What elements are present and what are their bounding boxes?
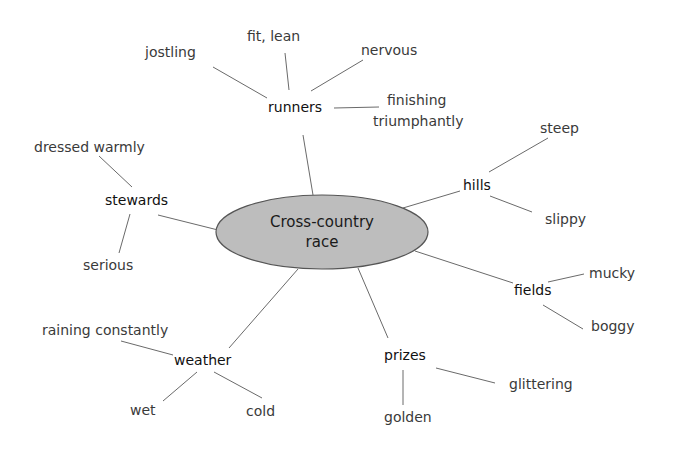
line-weather-cold: [214, 372, 262, 398]
leaf-wet: wet: [130, 402, 156, 418]
leaf-jostling: jostling: [145, 44, 196, 60]
leaf-fit-lean: fit, lean: [247, 28, 300, 44]
leaf-boggy: boggy: [591, 318, 635, 334]
leaf-slippy: slippy: [545, 211, 586, 227]
line-center-stewards: [158, 215, 218, 230]
line-runners-nervous: [311, 60, 363, 91]
leaf-raining-constantly: raining constantly: [42, 322, 168, 338]
leaf-mucky: mucky: [589, 265, 635, 281]
line-hills-slippy: [490, 196, 532, 212]
line-prizes-glittering: [436, 368, 495, 383]
leaf-steep: steep: [540, 120, 579, 136]
branch-fields: fields: [514, 282, 552, 298]
leaf-glittering: glittering: [509, 376, 573, 392]
branch-runners: runners: [268, 99, 322, 115]
line-center-fields: [415, 251, 513, 283]
leaf-dressed-warmly: dressed warmly: [34, 139, 145, 155]
leaf-serious: serious: [83, 257, 133, 273]
leaf-cold: cold: [246, 403, 275, 419]
line-center-prizes: [358, 268, 388, 338]
branch-prizes: prizes: [384, 347, 426, 363]
line-runners-fitlean: [285, 53, 289, 90]
line-center-weather: [229, 269, 298, 348]
branch-hills: hills: [463, 177, 491, 193]
center-ellipse: [216, 195, 428, 269]
leaf-nervous: nervous: [361, 42, 417, 58]
line-runners-jostling: [213, 67, 267, 98]
line-center-hills: [403, 191, 460, 208]
line-center-runners: [303, 135, 313, 195]
line-weather-raining: [121, 341, 173, 355]
line-stewards-dressed: [99, 156, 132, 187]
branch-weather: weather: [174, 352, 231, 368]
line-stewards-serious: [119, 214, 130, 253]
mind-map-canvas: Cross-country race runners jostling fit,…: [0, 0, 674, 454]
center-topic-line1: Cross-country: [262, 214, 382, 231]
leaf-finishing-line1: finishing: [387, 92, 446, 108]
line-fields-boggy: [543, 305, 583, 329]
leaf-finishing-line2: triumphantly: [373, 113, 464, 129]
line-runners-finishing: [334, 107, 379, 108]
line-hills-steep: [489, 138, 548, 172]
center-topic-line2: race: [262, 234, 382, 251]
line-fields-mucky: [548, 274, 584, 282]
leaf-golden: golden: [384, 409, 432, 425]
branch-stewards: stewards: [105, 192, 168, 208]
line-weather-wet: [163, 372, 197, 401]
